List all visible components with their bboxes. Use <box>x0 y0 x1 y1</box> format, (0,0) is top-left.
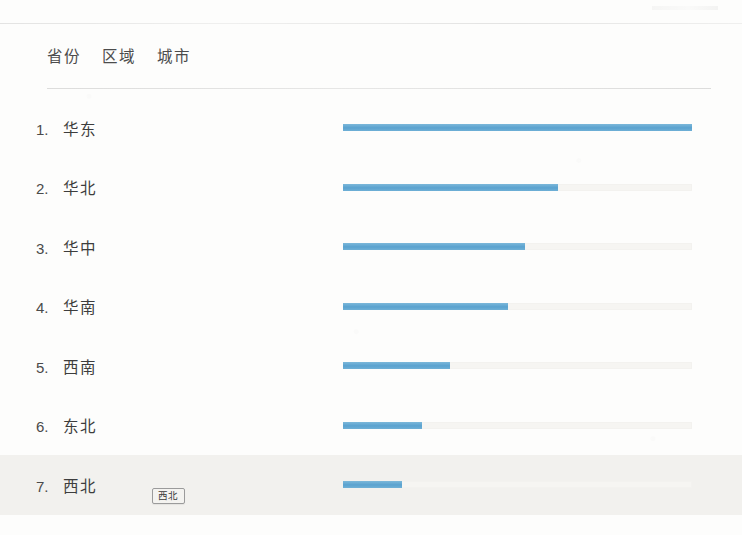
row-rank: 3. <box>36 240 63 257</box>
row-name: 东北 <box>63 414 96 436</box>
row-name: 华北 <box>63 176 96 198</box>
ranking-list: 1.华东2.华北3.华中4.华南5.西南6.东北7.西北西北 <box>0 98 742 515</box>
bar-track <box>343 184 692 191</box>
bar-track <box>343 243 692 250</box>
row-label: 3.华中 <box>36 236 96 258</box>
row-label: 1.华东 <box>36 117 96 139</box>
bar-track <box>343 362 692 369</box>
row-label: 2.华北 <box>36 176 96 198</box>
row-rank: 2. <box>36 180 63 197</box>
tab-region[interactable]: 区域 <box>102 44 135 66</box>
bar-fill[interactable] <box>343 422 422 429</box>
bar-fill[interactable] <box>343 362 450 369</box>
row-name: 华南 <box>63 295 96 317</box>
table-row[interactable]: 5.西南 <box>0 336 742 396</box>
bar-track <box>343 422 692 429</box>
row-label: 4.华南 <box>36 295 96 317</box>
bar-fill[interactable] <box>343 184 558 191</box>
row-rank: 4. <box>36 299 63 316</box>
scan-artifact <box>652 6 718 10</box>
row-rank: 7. <box>36 478 63 495</box>
bar-track <box>343 303 692 310</box>
row-rank: 5. <box>36 359 63 376</box>
bar-fill[interactable] <box>343 243 525 250</box>
bar-fill[interactable] <box>343 303 508 310</box>
tab-province[interactable]: 省份 <box>47 44 80 66</box>
row-name: 华东 <box>63 117 96 139</box>
row-rank: 1. <box>36 121 63 138</box>
tab-city[interactable]: 城市 <box>157 44 190 66</box>
bar-fill[interactable] <box>343 481 402 488</box>
table-row[interactable]: 6.东北 <box>0 396 742 456</box>
table-row[interactable]: 3.华中 <box>0 217 742 277</box>
table-row[interactable]: 2.华北 <box>0 158 742 218</box>
row-label: 7.西北 <box>36 474 96 496</box>
row-name: 西北 <box>63 474 96 496</box>
table-row[interactable]: 7.西北西北 <box>0 455 742 515</box>
header-divider <box>47 88 711 89</box>
row-name: 华中 <box>63 236 96 258</box>
page-canvas: 省份 区域 城市 1.华东2.华北3.华中4.华南5.西南6.东北7.西北西北 <box>0 0 742 535</box>
dimension-tabs[interactable]: 省份 区域 城市 <box>47 44 190 66</box>
row-rank: 6. <box>36 418 63 435</box>
row-name: 西南 <box>63 355 96 377</box>
bar-tooltip: 西北 <box>152 488 185 504</box>
bar-track <box>343 124 692 131</box>
row-label: 5.西南 <box>36 355 96 377</box>
row-label: 6.东北 <box>36 414 96 436</box>
table-row[interactable]: 1.华东 <box>0 98 742 158</box>
bar-track <box>343 481 692 488</box>
bar-fill[interactable] <box>343 124 692 131</box>
table-row[interactable]: 4.华南 <box>0 277 742 337</box>
top-divider <box>0 23 742 24</box>
